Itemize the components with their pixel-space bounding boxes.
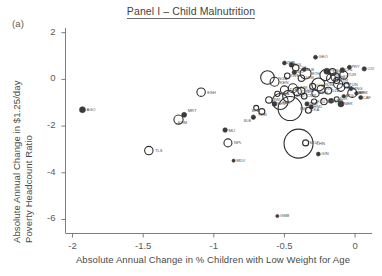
y-tick-label: 0 bbox=[34, 72, 56, 83]
data-point-label: GIN bbox=[321, 151, 328, 156]
data-point bbox=[303, 140, 309, 146]
data-point bbox=[362, 67, 366, 71]
data-point-label: GMB bbox=[280, 213, 290, 218]
data-points: AGOTLSESHMRTKHMMLINPLMDVSLENGAZMBBOLCOLG… bbox=[79, 54, 374, 218]
data-point-label: BFA bbox=[252, 108, 260, 113]
x-tick-label: -2 bbox=[58, 240, 88, 251]
data-point bbox=[197, 88, 205, 96]
y-tick-label: -6 bbox=[34, 212, 56, 223]
y-tick-label: -2 bbox=[34, 119, 56, 130]
data-point-label: COD bbox=[301, 89, 310, 94]
data-point-label: CMR bbox=[307, 93, 316, 98]
data-point bbox=[232, 159, 235, 162]
data-point bbox=[251, 115, 255, 119]
data-point-label: TLS bbox=[155, 148, 163, 153]
data-point-label: MAR bbox=[327, 99, 336, 104]
data-point-label: GEO bbox=[319, 54, 328, 59]
x-tick-label: -1.5 bbox=[128, 240, 158, 251]
data-point-label: MLI bbox=[228, 128, 235, 133]
x-tick-label: 0 bbox=[340, 240, 370, 251]
data-point-label: ALB bbox=[306, 67, 314, 72]
data-point bbox=[223, 128, 228, 133]
chart-figure: (a) Panel I – Child Malnutrition Absolut… bbox=[0, 0, 382, 276]
data-point-label: GTM bbox=[305, 75, 315, 80]
data-point-label: MOZ bbox=[310, 140, 320, 145]
data-point bbox=[145, 146, 153, 154]
y-tick-label: -4 bbox=[34, 166, 56, 177]
data-point-label: AGO bbox=[86, 107, 95, 112]
data-point-label: NER bbox=[344, 101, 353, 106]
data-point-label: MNG bbox=[353, 86, 363, 91]
data-point-label: LKA bbox=[311, 107, 319, 112]
data-point-label: SDN bbox=[319, 90, 328, 95]
data-point bbox=[276, 214, 279, 217]
data-point-label: CHL bbox=[345, 67, 354, 72]
x-tick-label: -1 bbox=[199, 240, 229, 251]
data-point-label: TUR bbox=[348, 72, 356, 77]
x-tick-marks bbox=[73, 234, 355, 238]
data-point-label: KHM bbox=[178, 120, 188, 125]
data-point bbox=[314, 55, 318, 59]
data-point-label: CIV bbox=[367, 66, 374, 71]
data-point-label: CAF bbox=[363, 95, 372, 100]
data-point-label: MRT bbox=[188, 108, 197, 113]
data-point-label: KEN bbox=[280, 80, 288, 85]
data-point-label: ZWE bbox=[290, 73, 299, 78]
data-point-label: ESH bbox=[207, 90, 215, 95]
data-point-label: DZA bbox=[332, 88, 340, 93]
y-tick-label: 2 bbox=[34, 26, 56, 37]
data-point-label: MDV bbox=[236, 158, 245, 163]
data-point bbox=[224, 139, 232, 147]
y-tick-marks bbox=[62, 33, 66, 220]
data-point-label: SLE bbox=[244, 118, 252, 123]
data-point-label: NPL bbox=[234, 140, 243, 145]
data-point bbox=[316, 152, 320, 156]
scatter-plot-canvas: AGOTLSESHMRTKHMMLINPLMDVSLENGAZMBBOLCOLG… bbox=[0, 0, 382, 276]
x-tick-label: -0.5 bbox=[269, 240, 299, 251]
data-point bbox=[79, 107, 85, 113]
data-point-label: RWA bbox=[280, 91, 290, 96]
data-point-label: SEN bbox=[277, 101, 285, 106]
data-point-label: SYR bbox=[340, 78, 348, 83]
